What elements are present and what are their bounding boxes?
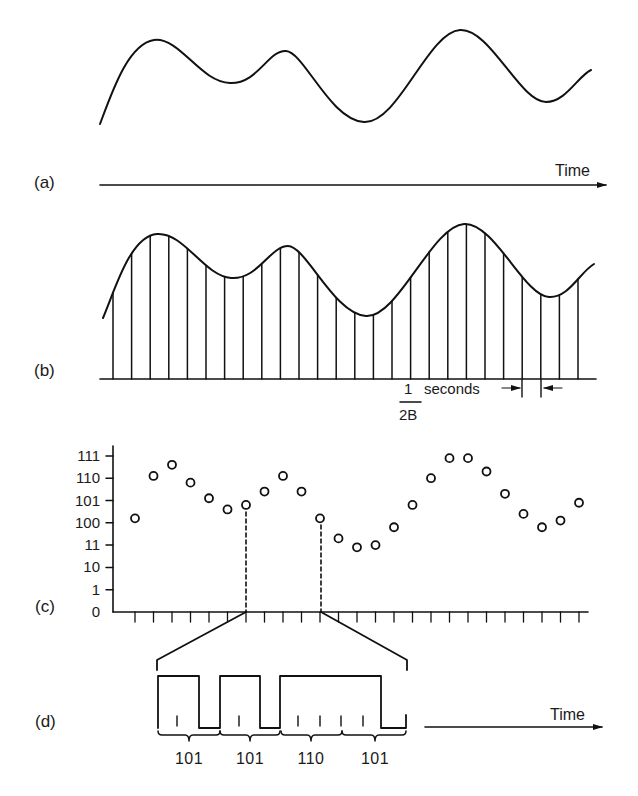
sample-point: [242, 501, 250, 509]
x-axis-ticks: [135, 612, 579, 622]
panel-label-b: (b): [34, 361, 55, 380]
sample-point: [501, 490, 509, 498]
panel-label-a: (a): [34, 173, 55, 192]
diagram-canvas: Time (a) (b) 1 2B seconds 01101110010111…: [0, 0, 638, 796]
sample-point: [575, 499, 583, 507]
time-axis-label: Time: [555, 162, 590, 179]
sample-point: [316, 514, 324, 522]
code-label-3: 110: [297, 750, 324, 767]
sample-point: [427, 474, 435, 482]
code-label-4: 101: [361, 750, 389, 767]
sample-point: [279, 472, 287, 480]
y-tick-label: 11: [84, 536, 100, 553]
y-tick-label: 111: [77, 447, 100, 464]
time-axis-label-d: Time: [550, 706, 585, 723]
sample-point: [557, 517, 565, 525]
code-labels: 101 101 110 101: [175, 750, 389, 767]
sample-point: [150, 472, 158, 480]
sample-interval-annotation: 1 2B seconds: [399, 380, 562, 423]
bit-slot-ticks: [177, 716, 363, 726]
quantized-samples: [131, 454, 583, 551]
code-braces: [158, 731, 406, 741]
code-label-1: 101: [175, 750, 203, 767]
analog-signal-curve: [100, 30, 591, 124]
interval-denominator: 2B: [399, 406, 417, 423]
code-label-2: 101: [236, 750, 264, 767]
panel-d: 101 101 110 101 Time (d): [35, 612, 602, 767]
y-tick-label: 0: [92, 603, 100, 620]
y-axis-ticks: 011011100101110111: [75, 447, 113, 620]
sample-point: [131, 514, 139, 522]
y-tick-label: 110: [76, 469, 100, 486]
sample-point: [353, 543, 361, 551]
zoom-line-left: [157, 612, 246, 670]
sample-point: [446, 454, 454, 462]
sample-point: [372, 541, 380, 549]
sample-point: [187, 479, 195, 487]
sampled-signal-curve: [103, 224, 594, 318]
y-tick-label: 101: [75, 492, 100, 509]
interval-unit: seconds: [424, 380, 480, 397]
panel-b: (b) 1 2B seconds: [34, 224, 596, 423]
panel-c: 011011100101110111 (c): [35, 446, 588, 622]
y-tick-label: 1: [92, 581, 100, 598]
interval-numerator: 1: [404, 380, 412, 397]
sample-point: [298, 488, 306, 496]
pulse-waveform: [158, 676, 406, 728]
pcm-diagram: Time (a) (b) 1 2B seconds 01101110010111…: [0, 0, 638, 796]
sample-point: [335, 534, 343, 542]
panel-a: Time (a): [34, 30, 606, 192]
sample-point: [464, 454, 472, 462]
sample-lines: [113, 224, 578, 379]
sample-point: [261, 488, 269, 496]
sample-point: [168, 461, 176, 469]
sample-point: [409, 501, 417, 509]
sample-point: [520, 510, 528, 518]
sample-point: [390, 523, 398, 531]
sample-point: [205, 494, 213, 502]
y-tick-label: 100: [75, 514, 100, 531]
panel-label-c: (c): [35, 597, 55, 616]
sample-point: [538, 523, 546, 531]
sample-point: [224, 505, 232, 513]
sample-point: [483, 468, 491, 476]
y-tick-label: 10: [83, 558, 100, 575]
panel-label-d: (d): [35, 712, 56, 731]
